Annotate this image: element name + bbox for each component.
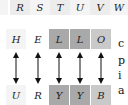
- target-letter-highlighted: B: [91, 85, 111, 105]
- side-text-line: a: [118, 84, 125, 97]
- alphabet-cell: R: [10, 0, 30, 15]
- alphabet-cell: T: [50, 0, 70, 15]
- double-arrow-icon: [56, 52, 62, 84]
- side-text-line: i: [118, 69, 122, 82]
- target-letter: U: [6, 85, 26, 105]
- side-text-line: c: [118, 37, 124, 50]
- double-arrow-icon: [77, 52, 83, 84]
- side-text-line: p: [118, 54, 125, 67]
- alphabet-cell: U: [70, 0, 90, 15]
- source-letter: H: [6, 29, 26, 49]
- alphabet-cell: W: [110, 0, 128, 15]
- source-letter-highlighted: L: [49, 29, 69, 49]
- double-arrow-icon: [98, 52, 104, 84]
- target-letter-highlighted: Y: [70, 85, 90, 105]
- target-letter: R: [28, 85, 48, 105]
- source-letter: E: [28, 29, 48, 49]
- source-letter-highlighted: L: [70, 29, 90, 49]
- double-arrow-icon: [13, 52, 19, 84]
- double-arrow-icon: [35, 52, 41, 84]
- alphabet-cell-partial: [0, 0, 8, 15]
- alphabet-cell: V: [90, 0, 110, 15]
- target-letter-highlighted: Y: [49, 85, 69, 105]
- source-letter-highlighted: O: [91, 29, 111, 49]
- alphabet-cell: S: [30, 0, 50, 15]
